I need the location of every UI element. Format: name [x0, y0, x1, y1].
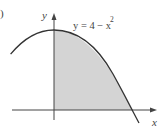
y-axis-arrow-icon	[52, 13, 57, 20]
x-axis-label: x	[151, 116, 157, 128]
equation-label: y = 4 − x	[73, 20, 112, 31]
figure-canvas: ) y x y = 4 − x 2	[0, 0, 168, 134]
shaded-area	[54, 30, 133, 110]
equation-exponent: 2	[110, 15, 114, 24]
x-axis-arrow-icon	[150, 108, 157, 113]
part-label: )	[0, 7, 4, 20]
y-axis-label: y	[41, 9, 47, 21]
